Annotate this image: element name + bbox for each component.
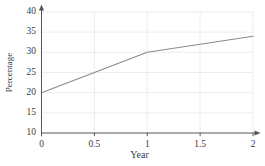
x-tick-label: 1.5 — [194, 140, 206, 150]
x-axis-label-text: Year — [130, 150, 148, 160]
y-tick-label: 40 — [8, 7, 36, 17]
x-tick-label: 0 — [39, 140, 44, 150]
x-tick-label: 1 — [145, 140, 150, 150]
axes — [39, 5, 261, 136]
chart-container: 10152025303540 00.511.52 Percentage Year — [0, 0, 265, 166]
x-axis-label: Year — [0, 150, 265, 160]
y-axis-label-text: Percentage — [4, 53, 14, 92]
x-axis-arrowhead-icon — [255, 130, 261, 135]
y-tick-label: 35 — [8, 27, 36, 37]
y-tick-label: 10 — [8, 128, 36, 138]
y-axis-arrowhead-icon — [39, 5, 44, 11]
x-tick-label: 0.5 — [88, 140, 100, 150]
y-axis-label: Percentage — [5, 40, 14, 106]
y-tick-label: 15 — [8, 108, 36, 118]
x-tick-label: 2 — [251, 140, 256, 150]
